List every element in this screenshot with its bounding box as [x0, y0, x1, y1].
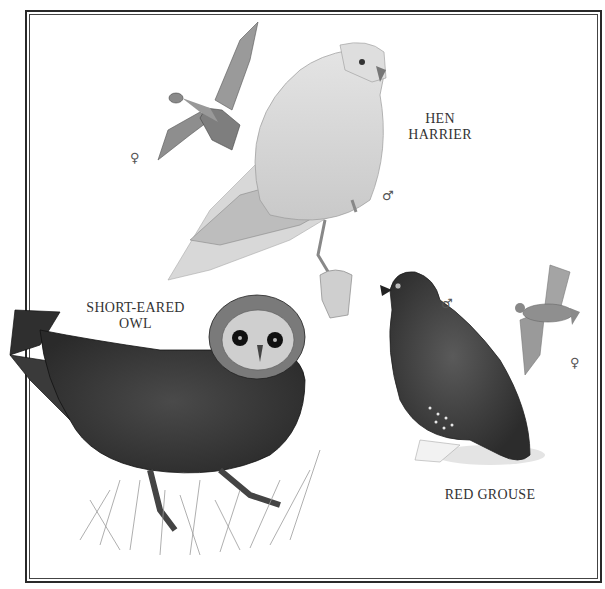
short-eared-owl-label: SHORT-EARED OWL	[78, 300, 193, 332]
short-eared-owl-label-line1: SHORT-EARED	[78, 300, 193, 316]
red-grouse-female-symbol: ♀	[570, 356, 580, 369]
hen-harrier-male-symbol: ♂	[382, 189, 394, 202]
red-grouse-male-symbol: ♂	[441, 297, 453, 310]
hen-harrier-label: HEN HARRIER	[405, 111, 475, 143]
short-eared-owl-label-line2: OWL	[78, 316, 193, 332]
hen-harrier-male-perched	[168, 43, 386, 318]
red-grouse-label: RED GROUSE	[440, 487, 540, 503]
hen-harrier-label-line1: HEN	[405, 111, 475, 127]
short-eared-owl	[10, 295, 320, 555]
red-grouse-label-line1: RED GROUSE	[440, 487, 540, 503]
hen-harrier-female-flying	[158, 22, 258, 160]
hen-harrier-female-symbol: ♀	[130, 151, 140, 164]
red-grouse-male	[380, 272, 545, 465]
hen-harrier-label-line2: HARRIER	[405, 127, 475, 143]
